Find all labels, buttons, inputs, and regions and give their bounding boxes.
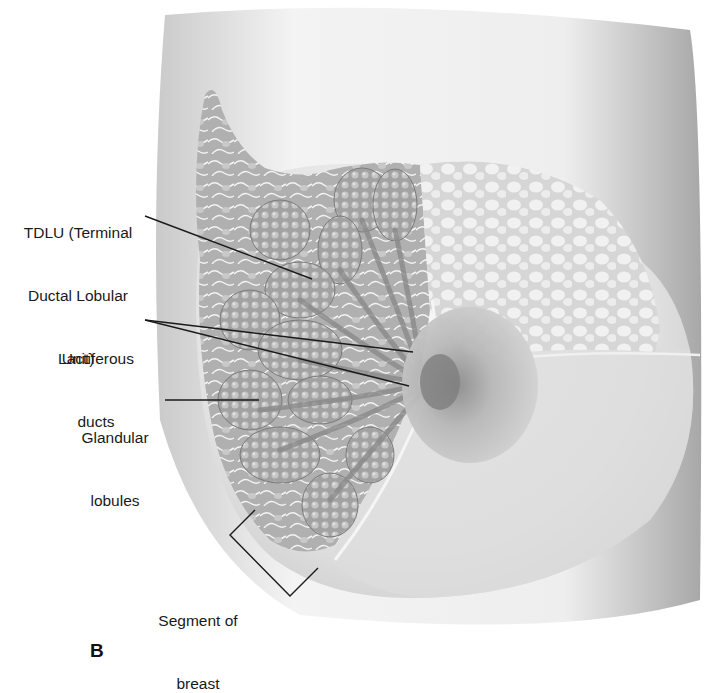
panel-letter: B — [90, 640, 104, 662]
lactiferous-label-line-1: Lactiferous — [48, 348, 144, 369]
glandular-label-line-1: Glandular — [72, 427, 158, 448]
glandular-lobules-label: Glandular lobules — [72, 385, 158, 553]
tdlu-label-line-1: TDLU (Terminal — [8, 222, 148, 243]
nipple — [420, 354, 460, 410]
segment-of-breast-label: Segment of breast — [148, 568, 248, 693]
segment-label-line-1: Segment of — [148, 610, 248, 631]
tdlu-label-line-2: Ductal Lobular — [8, 285, 148, 306]
glandular-label-line-2: lobules — [72, 490, 158, 511]
segment-label-line-2: breast — [148, 673, 248, 693]
